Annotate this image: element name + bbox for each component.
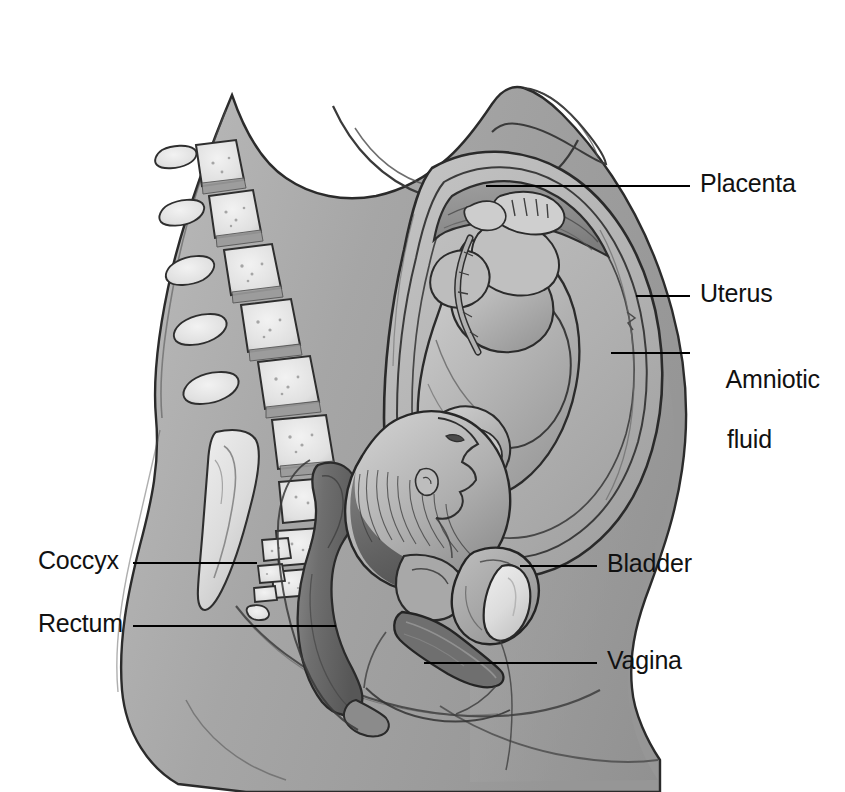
label-bladder: Bladder bbox=[607, 548, 692, 578]
label-amniotic-fluid-line2: fluid bbox=[727, 425, 772, 453]
label-placenta: Placenta bbox=[700, 168, 796, 198]
label-amniotic-fluid: Amniotic fluid bbox=[700, 334, 820, 484]
label-rectum: Rectum bbox=[38, 608, 123, 638]
label-amniotic-fluid-line1: Amniotic bbox=[726, 365, 820, 393]
label-coccyx: Coccyx bbox=[38, 545, 119, 575]
label-vagina: Vagina bbox=[607, 645, 682, 675]
pregnancy-anatomy-figure: Placenta Uterus Amniotic fluid Bladder V… bbox=[0, 0, 845, 792]
label-uterus: Uterus bbox=[700, 278, 772, 308]
